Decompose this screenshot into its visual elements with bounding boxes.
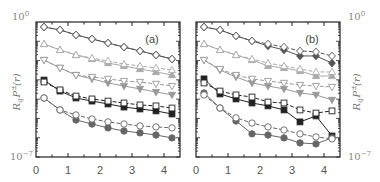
- square-marker-icon: [89, 96, 95, 102]
- diamond-marker-icon: [137, 47, 144, 55]
- circle-marker-icon: [313, 141, 319, 147]
- circle-marker-icon: [329, 136, 335, 142]
- circle-marker-icon: [137, 123, 143, 129]
- square-marker-icon: [313, 110, 319, 116]
- triangle-down-marker-icon: [329, 84, 336, 90]
- circle-marker-icon: [249, 131, 255, 137]
- square-marker-icon: [201, 80, 207, 86]
- circle-marker-icon: [265, 132, 271, 138]
- triangle-up-marker-icon: [153, 64, 160, 70]
- panel-b-ytick-bottom: 10−7: [348, 150, 371, 162]
- square-marker-icon: [57, 87, 63, 93]
- circle-marker-icon: [57, 107, 63, 113]
- circle-marker-icon: [121, 128, 127, 134]
- x-tick-label: 3: [129, 164, 135, 176]
- panel-b-xtick-labels: 01234: [193, 164, 327, 176]
- panel-a-ylabel: RqP±(r): [10, 73, 24, 111]
- diamond-marker-icon: [217, 26, 224, 34]
- diamond-marker-icon: [249, 37, 256, 45]
- square-marker-icon: [73, 93, 79, 99]
- square-marker-icon: [217, 88, 223, 94]
- triangle-down-marker-icon: [153, 81, 160, 87]
- square-marker-icon: [281, 107, 287, 113]
- circle-marker-icon: [297, 131, 303, 137]
- circle-marker-icon: [265, 124, 271, 130]
- triangle-down-marker-icon: [41, 57, 48, 63]
- square-marker-icon: [233, 92, 239, 98]
- diamond-marker-icon: [233, 32, 240, 40]
- x-tick-label: 1: [65, 164, 71, 176]
- circle-marker-icon: [105, 125, 111, 131]
- square-marker-icon: [105, 98, 111, 104]
- x-tick-label: 2: [257, 164, 263, 176]
- panel-a-ytick-top: 100: [12, 10, 29, 22]
- square-marker-icon: [249, 100, 255, 106]
- x-tick-label: 0: [193, 164, 199, 176]
- x-tick-label: 4: [321, 164, 327, 176]
- triangle-up-marker-icon: [249, 55, 256, 61]
- triangle-down-marker-icon: [329, 97, 336, 103]
- panel-a-label: (a): [145, 33, 158, 45]
- triangle-down-marker-icon: [313, 83, 320, 89]
- circle-marker-icon: [105, 119, 111, 125]
- triangle-up-marker-icon: [265, 59, 272, 65]
- square-marker-icon: [137, 102, 143, 108]
- x-tick-label: 3: [289, 164, 295, 176]
- chart-figure: (a) 100 10−7 01234 RqP±(r) (b) 100 10−7 …: [0, 0, 380, 182]
- triangle-up-marker-icon: [89, 54, 96, 60]
- diamond-marker-icon: [153, 51, 160, 59]
- panel-a-ytick-bottom: 10−7: [10, 150, 33, 162]
- circle-marker-icon: [217, 105, 223, 111]
- square-marker-icon: [265, 99, 271, 105]
- panel-b-ytick-top: 100: [348, 10, 365, 22]
- diamond-marker-icon: [329, 52, 336, 60]
- diamond-marker-icon: [89, 35, 96, 43]
- square-marker-icon: [41, 79, 47, 85]
- circle-marker-icon: [249, 120, 255, 126]
- diamond-marker-icon: [201, 23, 208, 31]
- square-marker-icon: [169, 111, 175, 117]
- x-tick-label: 4: [161, 164, 167, 176]
- triangle-down-marker-icon: [169, 83, 176, 89]
- diamond-marker-icon: [121, 43, 128, 51]
- circle-marker-icon: [137, 130, 143, 136]
- x-tick-label: 2: [97, 164, 103, 176]
- circle-marker-icon: [297, 140, 303, 146]
- triangle-up-marker-icon: [201, 40, 208, 46]
- x-tick-label: 0: [33, 164, 39, 176]
- circle-marker-icon: [233, 115, 239, 121]
- panel-a-xtick-labels: 01234: [33, 164, 167, 176]
- square-marker-icon: [249, 94, 255, 100]
- circle-marker-icon: [281, 135, 287, 141]
- square-marker-icon: [121, 100, 127, 106]
- triangle-down-marker-icon: [201, 57, 208, 63]
- triangle-up-marker-icon: [329, 68, 336, 74]
- circle-marker-icon: [169, 135, 175, 141]
- diamond-marker-icon: [169, 55, 176, 63]
- square-marker-icon: [153, 103, 159, 109]
- circle-marker-icon: [153, 124, 159, 130]
- panel-b-label: (b): [305, 33, 318, 45]
- square-marker-icon: [297, 107, 303, 113]
- circle-marker-icon: [281, 127, 287, 133]
- circle-marker-icon: [153, 132, 159, 138]
- diamond-marker-icon: [105, 39, 112, 47]
- panel-b: (b) 100 10−7 01234 RqP±(r): [193, 10, 371, 176]
- triangle-up-marker-icon: [313, 68, 320, 74]
- circle-marker-icon: [313, 134, 319, 140]
- square-marker-icon: [281, 100, 287, 106]
- circle-marker-icon: [169, 125, 175, 131]
- panel-b-ylabel: RqP±(r): [350, 73, 364, 111]
- diamond-marker-icon: [329, 59, 336, 67]
- diamond-marker-icon: [297, 47, 304, 55]
- circle-marker-icon: [201, 92, 207, 98]
- triangle-down-marker-icon: [169, 92, 176, 98]
- circle-marker-icon: [121, 121, 127, 127]
- triangle-up-marker-icon: [41, 40, 48, 46]
- diamond-marker-icon: [57, 26, 64, 34]
- circle-marker-icon: [89, 116, 95, 122]
- square-marker-icon: [169, 105, 175, 111]
- square-marker-icon: [297, 119, 303, 125]
- x-tick-label: 1: [225, 164, 231, 176]
- circle-marker-icon: [41, 95, 47, 101]
